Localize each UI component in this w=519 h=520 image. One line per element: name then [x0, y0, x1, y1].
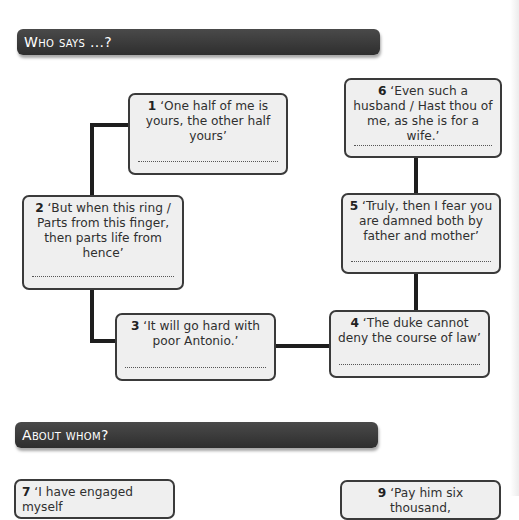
connector-5-6-vertical — [414, 157, 418, 194]
quote-text: ‘Truly, then I fear you are damned both … — [359, 199, 492, 243]
quote-box-6: 6 ‘Even such a husband / Hast thou of me… — [344, 78, 502, 158]
quote-number: 7 — [22, 485, 30, 499]
quote-number: 3 — [131, 319, 139, 333]
quote-box-9: 9 ‘Pay him six thousand, — [340, 480, 501, 520]
quote-text: ‘Even such a husband / Hast thou of me, … — [353, 84, 492, 143]
section-header-who-says: Who says ...? — [17, 29, 380, 55]
quote-text: ‘It will go hard with poor Antonio.’ — [143, 319, 260, 348]
connector-4-5-vertical — [414, 272, 418, 311]
quote-box-7: 7 ‘I have engaged myself — [14, 479, 175, 519]
connector-1-2-vertical — [90, 123, 94, 196]
answer-field[interactable] — [339, 364, 480, 365]
quote-number: 5 — [350, 199, 358, 213]
quote-number: 2 — [35, 201, 43, 215]
quote-box-3: 3 ‘It will go hard with poor Antonio.’ — [115, 313, 276, 381]
quote-box-4: 4 ‘The duke cannot deny the course of la… — [329, 310, 490, 378]
answer-field[interactable] — [351, 261, 491, 262]
quote-box-2: 2 ‘But when this ring / Parts from this … — [22, 195, 184, 290]
quote-text: ‘I have engaged myself — [22, 485, 133, 514]
quote-text: ‘Pay him six thousand, — [390, 486, 463, 515]
quote-text: ‘But when this ring / Parts from this fi… — [37, 201, 171, 260]
quote-number: 6 — [378, 84, 386, 98]
quote-text: ‘The duke cannot deny the course of law’ — [338, 316, 481, 345]
section-header-about-whom: About whom? — [15, 422, 378, 448]
section-title: About whom? — [22, 427, 109, 443]
quote-box-1: 1 ‘One half of me is yours, the other ha… — [128, 93, 288, 175]
quote-box-5: 5 ‘Truly, then I fear you are damned bot… — [341, 193, 501, 274]
connector-3-4-horizontal — [274, 344, 330, 348]
answer-field[interactable] — [138, 161, 278, 162]
quote-text: ‘One half of me is yours, the other half… — [146, 99, 271, 143]
connector-2-3-horizontal — [90, 339, 116, 343]
quote-number: 1 — [148, 99, 156, 113]
page-edge-shadow — [510, 0, 519, 496]
quote-number: 4 — [350, 316, 358, 330]
answer-field[interactable] — [32, 276, 174, 277]
connector-2-3-vertical — [90, 288, 94, 343]
quote-number: 9 — [378, 486, 386, 500]
answer-field[interactable] — [354, 145, 492, 146]
answer-field[interactable] — [125, 367, 266, 368]
section-title: Who says ...? — [24, 34, 112, 50]
connector-1-2-horizontal — [90, 123, 129, 127]
